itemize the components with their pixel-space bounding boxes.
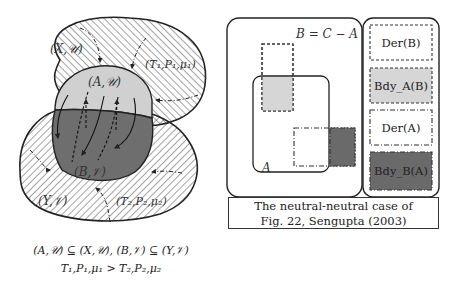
- set-c-container: [227, 18, 362, 197]
- label-t2-p2-mu2: (T₂,P₂,μ₂): [116, 195, 167, 208]
- legend-der-b-label: Der(B): [382, 36, 421, 50]
- right-caption-box: The neutral-neutral case of Fig. 22, Sen…: [228, 197, 439, 229]
- label-a-u: (A,𝒰): [88, 75, 121, 89]
- bdy-a-b-region: [262, 77, 293, 111]
- right-diagram: B = C − A A Der(B) Bdy_A(B) Der(A) Bdy_B…: [227, 18, 439, 197]
- equation-label: B = C − A: [295, 27, 358, 41]
- right-caption-line2: Fig. 22, Sengupta (2003): [229, 214, 438, 229]
- right-caption-line1: The neutral-neutral case of: [229, 199, 438, 214]
- label-y-v: (Y,𝒱): [38, 194, 68, 208]
- legend-bdy-a-b-label: Bdy_A(B): [374, 79, 428, 93]
- legend-der-a-label: Der(A): [382, 121, 421, 135]
- left-diagram: (X,𝒰) (A,𝒰) (T₁,P₁,μ₁) (B,𝒱) (Y,𝒱) (T₂,P…: [20, 17, 206, 222]
- left-caption-line1: (A,𝒰) ⊆ (X,𝒰), (B,𝒱) ⊆ (Y,𝒱): [0, 244, 222, 257]
- legend-bdy-b-a-label: Bdy_B(A): [374, 164, 428, 178]
- set-a-label: A: [261, 161, 271, 175]
- bdy-b-a-region: [330, 128, 355, 166]
- left-caption-line2: T₁,P₁,μ₁ > T₂,P₂,μ₂: [0, 262, 222, 275]
- label-t1-p1-mu1: (T₁,P₁,μ₁): [145, 58, 196, 71]
- label-b-v: (B,𝒱): [74, 165, 106, 179]
- label-x-u: (X,𝒰): [50, 42, 83, 56]
